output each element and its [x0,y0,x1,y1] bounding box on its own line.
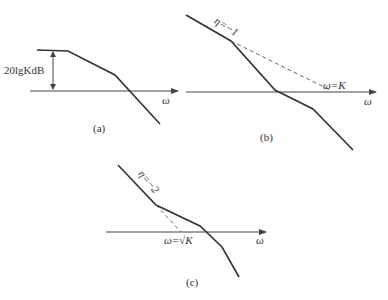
crossover-label-c: ω=√K [164,234,193,246]
asymptote-b [231,41,330,90]
slope-label-b: η=−1 [212,14,240,38]
axis-label-b: ω [364,95,372,107]
caption-a: (a) [93,122,106,135]
panel-a: 20lgKdB ω (a) [4,50,178,135]
arrow-up-icon [50,51,56,57]
magnitude-curve-c [118,165,239,277]
axis-label-a: ω [162,94,170,106]
slope-label-c: η=−2 [136,168,162,196]
caption-c: (c) [186,276,199,289]
crossover-label-b: ω=K [323,79,346,91]
caption-b: (b) [260,131,273,144]
asymptote-c [156,205,181,232]
panel-b: η=−1 ω=K ω (b) [186,14,376,150]
panel-c: η=−2 ω=√K ω (c) [106,165,266,289]
arrow-down-icon [50,84,56,90]
bode-diagram: 20lgKdB ω (a) η=−1 ω=K ω (b) η=−2 ω=√K ω… [0,0,388,300]
magnitude-curve-a [37,50,160,124]
gain-label: 20lgKdB [4,64,44,76]
axis-label-c: ω [256,234,264,246]
